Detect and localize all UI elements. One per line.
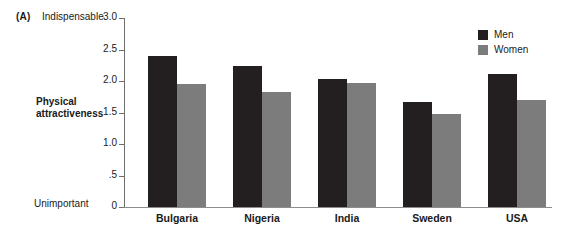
bar-usa-women [517, 100, 546, 207]
bar-sweden-men [403, 102, 432, 207]
bar-usa-men [488, 74, 517, 207]
y-axis-line [124, 18, 125, 208]
y-tick-label: 2.5 [103, 43, 117, 55]
y-tick-label: 1.5 [103, 106, 117, 118]
y-axis-title: Physical attractiveness [36, 96, 108, 120]
y-tick-label: 2.0 [103, 74, 117, 86]
figure-panel-a: (A) Indispensable Unimportant Physical a… [0, 0, 577, 239]
bar-bulgaria-women [177, 84, 206, 207]
y-tick-mark [119, 176, 124, 177]
bar-nigeria-men [233, 66, 262, 207]
bar-nigeria-women [262, 92, 291, 207]
bar-group [233, 18, 291, 207]
y-tick-label: .5 [109, 169, 117, 181]
legend-item-men: Men [478, 27, 528, 42]
scale-anchor-top: Indispensable [42, 11, 104, 22]
y-tick-mark [119, 18, 124, 19]
bar-group [148, 18, 206, 207]
y-tick-mark [119, 144, 124, 145]
bar-group [403, 18, 461, 207]
legend-label: Men [494, 29, 513, 41]
legend-label: Women [494, 44, 528, 56]
y-tick-label: 3.0 [103, 11, 117, 23]
bar-india-women [347, 83, 376, 207]
y-tick-mark [119, 113, 124, 114]
chart-legend: MenWomen [478, 27, 528, 57]
y-tick-label: 0 [111, 200, 117, 212]
bar-sweden-women [432, 114, 461, 207]
bar-india-men [318, 79, 347, 207]
y-tick-label: 1.0 [103, 137, 117, 149]
category-label-usa: USA [467, 212, 567, 224]
legend-swatch-icon [478, 30, 488, 40]
legend-swatch-icon [478, 45, 488, 55]
scale-anchor-bottom: Unimportant [34, 198, 88, 209]
bar-group [318, 18, 376, 207]
y-tick-mark [119, 207, 124, 208]
y-tick-mark [119, 50, 124, 51]
x-axis-line [124, 207, 552, 208]
bar-bulgaria-men [148, 56, 177, 207]
panel-letter: (A) [16, 11, 30, 22]
y-tick-mark [119, 81, 124, 82]
legend-item-women: Women [478, 42, 528, 57]
